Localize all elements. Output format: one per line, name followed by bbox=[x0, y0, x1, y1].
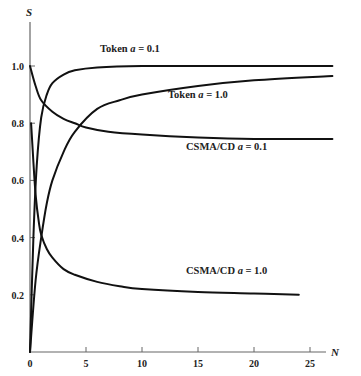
chart: S N 0510152025 0.20.40.60.81.0 Token a =… bbox=[0, 0, 361, 376]
curves bbox=[30, 66, 332, 352]
curve-label-token-a-0-1: Token a = 0.1 bbox=[100, 43, 160, 54]
y-tick-label: 0.4 bbox=[12, 233, 25, 244]
curve-token-a-1-0 bbox=[30, 76, 332, 352]
y-ticks: 0.20.40.60.81.0 bbox=[12, 61, 36, 301]
y-tick-label: 1.0 bbox=[12, 61, 25, 72]
x-ticks: 0510152025 bbox=[28, 347, 316, 369]
axes: S N bbox=[26, 6, 340, 358]
y-axis-title: S bbox=[26, 6, 32, 18]
y-tick-label: 0.6 bbox=[12, 175, 25, 186]
x-tick-label: 25 bbox=[305, 358, 315, 369]
x-tick-label: 15 bbox=[193, 358, 203, 369]
x-tick-label: 0 bbox=[28, 358, 33, 369]
curve-token-a-0-1 bbox=[30, 66, 332, 352]
curve-labels: Token a = 0.1Token a = 1.0CSMA/CD a = 0.… bbox=[100, 43, 267, 276]
x-tick-label: 10 bbox=[137, 358, 147, 369]
x-axis-title: N bbox=[330, 346, 340, 358]
curve-label-token-a-1-0: Token a = 1.0 bbox=[168, 89, 228, 100]
x-tick-label: 20 bbox=[249, 358, 259, 369]
x-tick-label: 5 bbox=[84, 358, 89, 369]
curve-label-csma-cd-a-1-0: CSMA/CD a = 1.0 bbox=[186, 265, 267, 276]
curve-csma-cd-a-0-1 bbox=[30, 66, 332, 139]
curve-label-csma-cd-a-0-1: CSMA/CD a = 0.1 bbox=[186, 141, 267, 152]
y-tick-label: 0.8 bbox=[12, 118, 25, 129]
y-tick-label: 0.2 bbox=[12, 290, 25, 301]
